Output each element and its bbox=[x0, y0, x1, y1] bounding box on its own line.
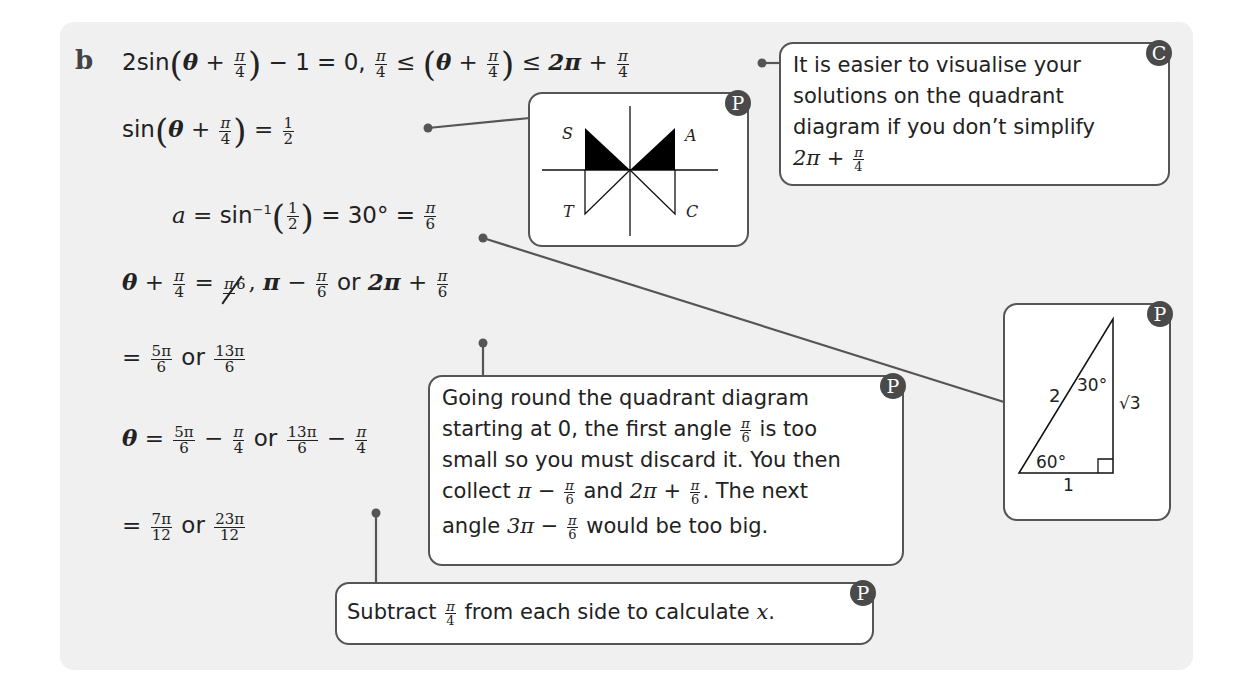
paren: ( bbox=[272, 197, 285, 237]
den: 6 bbox=[567, 528, 577, 541]
den: 6 bbox=[178, 441, 190, 456]
comma: , bbox=[248, 269, 255, 295]
category-badge-p: P bbox=[850, 580, 876, 606]
term: 3π bbox=[507, 514, 534, 538]
fraction: π6 bbox=[740, 417, 751, 444]
den: 6 bbox=[437, 285, 449, 300]
den: 6 bbox=[690, 493, 700, 506]
fraction: π4 bbox=[355, 425, 367, 456]
term: 2π bbox=[368, 268, 401, 295]
den: 6 bbox=[740, 431, 750, 444]
text-line-math: 2π + π4 bbox=[793, 143, 1095, 174]
op: + bbox=[191, 116, 210, 142]
den: 2 bbox=[287, 217, 299, 232]
fraction: π6 bbox=[424, 201, 436, 232]
term: π bbox=[517, 479, 531, 503]
text: − 1 = 0, bbox=[269, 49, 366, 75]
text-line: Going round the quadrant diagram bbox=[442, 383, 841, 414]
op: − bbox=[327, 425, 346, 451]
op: ≤ bbox=[522, 49, 541, 75]
num: π bbox=[567, 514, 578, 528]
paren: ) bbox=[233, 111, 246, 151]
den: 6 bbox=[564, 493, 574, 506]
fraction: π4 bbox=[234, 49, 246, 80]
op: = bbox=[122, 344, 141, 370]
callout-text: Subtract π4 from each side to calculate … bbox=[347, 597, 775, 628]
fraction: π4 bbox=[375, 49, 387, 80]
op: + bbox=[459, 49, 478, 75]
text: or bbox=[337, 269, 361, 295]
text: 2sin bbox=[122, 49, 170, 75]
op: + bbox=[206, 49, 225, 75]
den: 4 bbox=[233, 441, 245, 456]
text-line: starting at 0, the first angle π6 is too bbox=[442, 414, 841, 445]
fraction: π6 bbox=[564, 479, 575, 506]
paren: ( bbox=[155, 111, 168, 151]
op: + bbox=[664, 479, 682, 503]
exponent: −1 bbox=[253, 202, 272, 217]
opposite-label: √3 bbox=[1119, 393, 1141, 413]
num: π bbox=[223, 275, 235, 294]
equation-step-5: = 5π6 or 13π6 bbox=[122, 337, 247, 377]
text: and bbox=[583, 479, 623, 503]
op: + bbox=[588, 49, 607, 75]
term: 2π bbox=[548, 48, 581, 75]
op: + bbox=[827, 146, 845, 170]
callout-triangle-diagram: 2 30° √3 60° 1 P bbox=[1003, 303, 1171, 521]
paren: ) bbox=[301, 197, 314, 237]
paren: ) bbox=[248, 44, 261, 84]
den: 12 bbox=[219, 528, 240, 543]
text-line: solutions on the quadrant bbox=[793, 81, 1095, 112]
category-badge-p: P bbox=[725, 90, 751, 116]
callout-simplify-note: It is easier to visualise your solutions… bbox=[779, 42, 1170, 186]
den: 6 bbox=[316, 285, 328, 300]
part-label: b bbox=[75, 40, 93, 80]
num: π bbox=[564, 479, 575, 493]
quadrant-label-a: A bbox=[685, 126, 697, 145]
category-badge-p: P bbox=[1147, 301, 1173, 327]
fraction: π6 bbox=[567, 514, 578, 541]
den: 4 bbox=[617, 65, 629, 80]
fraction: π4 bbox=[233, 425, 245, 456]
term: π bbox=[263, 268, 280, 295]
equation-step-7: = 7π12 or 23π12 bbox=[122, 505, 247, 545]
op: − bbox=[538, 479, 556, 503]
num: π bbox=[445, 600, 456, 614]
op: = bbox=[194, 269, 213, 295]
text: collect bbox=[442, 479, 511, 503]
den: 6 bbox=[425, 217, 437, 232]
text: starting at 0, the first angle bbox=[442, 417, 732, 441]
den: 2 bbox=[283, 132, 295, 147]
den: 6 bbox=[224, 360, 236, 375]
variable: x bbox=[756, 600, 768, 624]
den: 6 bbox=[156, 360, 168, 375]
op: = bbox=[254, 116, 273, 142]
callout-quadrant-diagram: S A T C P bbox=[528, 92, 749, 247]
op: ≤ bbox=[396, 49, 415, 75]
den: 4 bbox=[853, 160, 863, 173]
den: 4 bbox=[220, 132, 232, 147]
den: 12 bbox=[151, 528, 172, 543]
text: sin bbox=[122, 116, 155, 142]
text-line: small so you must discard it. You then bbox=[442, 445, 841, 476]
fraction: 5π6 bbox=[151, 344, 172, 375]
fraction: π6 bbox=[437, 269, 449, 300]
op: − bbox=[204, 425, 223, 451]
text-line: angle 3π − π6 would be too big. bbox=[442, 511, 841, 542]
fraction: π4 bbox=[487, 49, 499, 80]
num: π bbox=[690, 479, 701, 493]
category-badge-p: P bbox=[880, 373, 906, 399]
fraction: π4 bbox=[219, 116, 231, 147]
fraction: 12 bbox=[287, 201, 299, 232]
den: 4 bbox=[375, 65, 387, 80]
theta: θ bbox=[183, 48, 198, 75]
text: or bbox=[181, 512, 205, 538]
op: − bbox=[541, 514, 559, 538]
op: + bbox=[408, 269, 427, 295]
quadrant-label-t: T bbox=[563, 202, 574, 221]
quadrant-label-s: S bbox=[562, 124, 573, 143]
text: . bbox=[768, 600, 775, 624]
cast-quadrant-diagram bbox=[530, 94, 746, 244]
fraction: 5π6 bbox=[173, 425, 194, 456]
text: or bbox=[254, 425, 278, 451]
